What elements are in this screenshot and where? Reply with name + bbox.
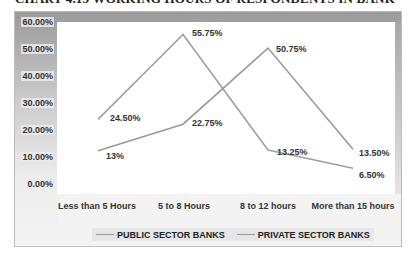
x-tick-0: Less than 5 Hours (58, 201, 136, 211)
series-private-sector-line (98, 48, 353, 151)
data-label-private-0: 13% (106, 151, 124, 161)
data-label-private-2: 50.75% (276, 44, 307, 54)
legend-label-public: PUBLIC SECTOR BANKS (117, 230, 225, 240)
data-label-public-1: 55.75% (192, 28, 223, 38)
series-public-sector-line (98, 35, 353, 169)
legend-label-private: PRIVATE SECTOR BANKS (258, 230, 370, 240)
x-tick-3: More than 15 hours (311, 201, 394, 211)
data-label-public-0: 24.50% (110, 113, 141, 123)
chart-lines (0, 0, 410, 256)
data-label-private-3: 13.50% (359, 148, 390, 158)
legend-line-swatch-icon (96, 234, 114, 236)
legend: PUBLIC SECTOR BANKS PRIVATE SECTOR BANKS (92, 228, 374, 241)
data-label-public-2: 13.25% (277, 147, 308, 157)
data-label-public-3: 6.50% (359, 170, 385, 180)
legend-item-private: PRIVATE SECTOR BANKS (237, 230, 370, 240)
x-tick-1: 5 to 8 Hours (158, 201, 210, 211)
legend-item-public: PUBLIC SECTOR BANKS (96, 230, 225, 240)
x-tick-2: 8 to 12 hours (240, 201, 296, 211)
data-label-private-1: 22.75% (192, 118, 223, 128)
legend-line-swatch-icon (237, 234, 255, 236)
